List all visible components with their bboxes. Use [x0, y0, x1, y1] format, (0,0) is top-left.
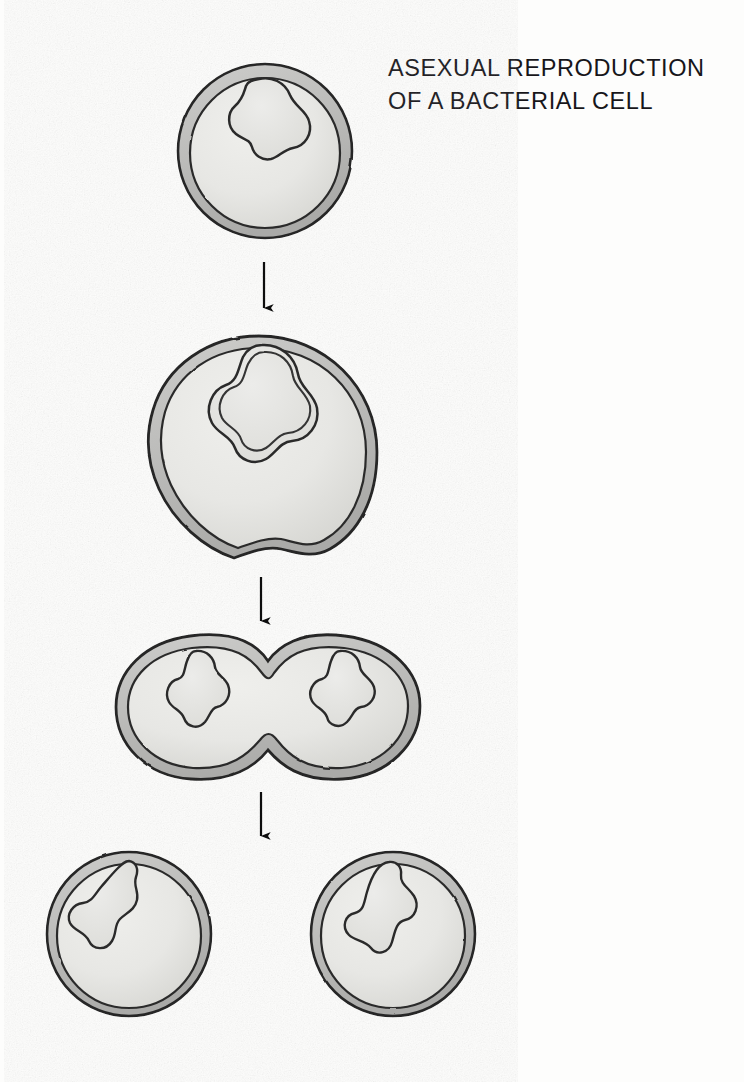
daughter-cell-right — [311, 852, 475, 1016]
figure-canvas: ASEXUAL REPRODUCTION OF A BACTERIAL CELL — [0, 0, 744, 1082]
stage-4-daughter-cells — [47, 852, 475, 1016]
stage-3-cell — [116, 635, 420, 780]
stage-2-cell — [148, 336, 377, 558]
stage-1-cell — [178, 64, 352, 238]
binary-fission-illustration — [0, 0, 744, 1082]
daughter-cell-left — [47, 852, 211, 1016]
